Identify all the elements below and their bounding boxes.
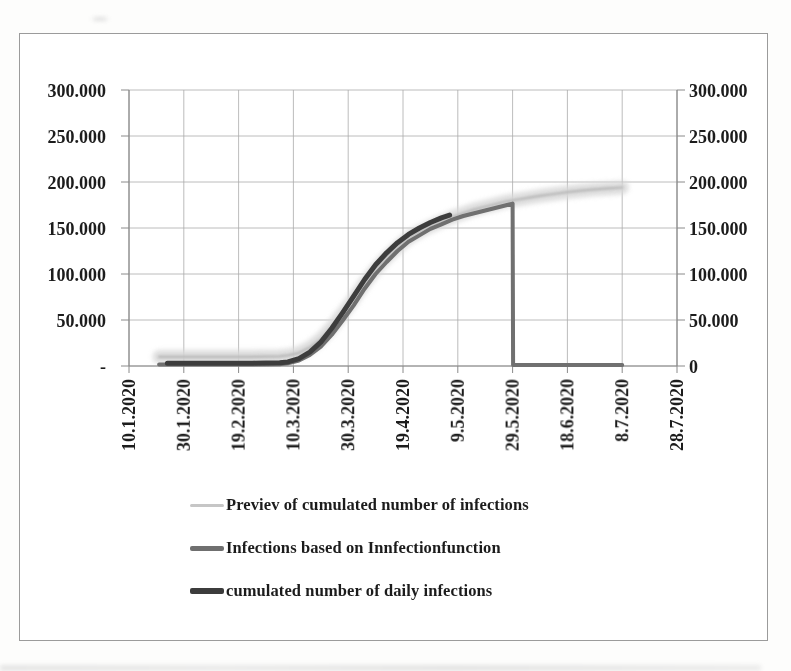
series-band-0 <box>159 188 622 357</box>
y-axis-left-label: 50.000 <box>57 311 107 331</box>
y-axis-right-label: 150.000 <box>689 219 748 239</box>
scanned-document-page: -50.000100.000150.000200.000250.000300.0… <box>0 0 791 671</box>
y-axis-right-label: 0 <box>689 357 698 377</box>
infection-line-chart: -50.000100.000150.000200.000250.000300.0… <box>0 0 791 671</box>
x-axis-date-label: 29.5.2020 <box>503 379 523 451</box>
y-axis-left-label: 100.000 <box>48 265 107 285</box>
y-axis-left-label: 150.000 <box>48 219 107 239</box>
x-axis-date-label: 18.6.2020 <box>557 379 577 451</box>
y-axis-right-label: 250.000 <box>689 127 748 147</box>
x-axis-date-label: 10.1.2020 <box>119 379 139 451</box>
y-axis-left-label: - <box>100 357 106 377</box>
cutoff-text-artifact <box>0 665 761 671</box>
y-axis-left-label: 250.000 <box>48 127 107 147</box>
y-axis-right-label: 200.000 <box>689 173 748 193</box>
y-axis-right-label: 100.000 <box>689 265 748 285</box>
y-axis-left-label: 300.000 <box>48 81 107 101</box>
y-axis-left-label: 200.000 <box>48 173 107 193</box>
y-axis-right-label: 300.000 <box>689 81 748 101</box>
x-axis-date-label: 28.7.2020 <box>667 379 687 451</box>
x-axis-date-label: 9.5.2020 <box>448 379 468 442</box>
y-axis-right-label: 50.000 <box>689 311 739 331</box>
x-axis-date-label: 30.1.2020 <box>174 379 194 451</box>
series-band-core-0 <box>159 188 622 357</box>
x-axis-date-label: 30.3.2020 <box>338 379 358 451</box>
x-axis-date-label: 8.7.2020 <box>612 379 632 442</box>
x-axis-date-label: 19.2.2020 <box>229 379 249 451</box>
x-axis-date-label: 19.4.2020 <box>393 379 413 451</box>
x-axis-date-label: 10.3.2020 <box>283 379 303 451</box>
